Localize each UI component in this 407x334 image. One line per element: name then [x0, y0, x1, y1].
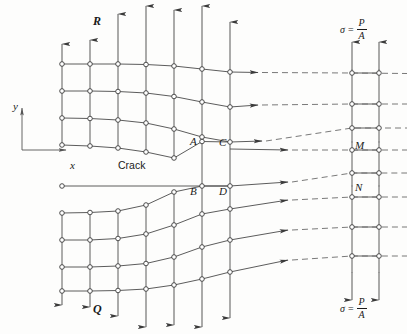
stress-fraction-bottom: P A — [357, 297, 367, 320]
traction-arrows-top — [62, 6, 379, 72]
node-label-c: C — [219, 137, 226, 148]
node-label-d: D — [219, 186, 227, 197]
flow-arrow — [230, 200, 288, 209]
crack-mesh-figure: R Q Crack A C B D M N y x σ = P A σ = P … — [0, 0, 407, 334]
stress-equals-bottom: = — [348, 304, 354, 314]
stress-label-top: σ = P A — [340, 18, 367, 41]
stress-numerator-bottom: P — [357, 297, 367, 308]
region-label-lower: Q — [93, 303, 102, 315]
traction-arrows-bottom — [62, 272, 379, 327]
flow-arrow — [230, 141, 262, 142]
region-label-upper: R — [93, 15, 101, 27]
stress-fraction-top: P A — [357, 18, 367, 41]
mesh-nodes — [60, 62, 382, 294]
stress-numerator-top: P — [357, 18, 367, 29]
stress-symbol-top: σ — [340, 25, 345, 35]
node-label-n: N — [355, 182, 362, 193]
flow-arrow — [230, 230, 288, 240]
stress-label-bottom: σ = P A — [340, 297, 367, 320]
flow-arrow — [230, 105, 258, 107]
stress-equals-top: = — [348, 25, 354, 35]
stress-denominator-bottom: A — [357, 309, 367, 320]
node-label-b: B — [190, 186, 197, 197]
axis-label-x: x — [70, 160, 75, 171]
flow-arrow — [230, 182, 288, 186]
flow-arrow — [230, 260, 288, 272]
stress-denominator-top: A — [357, 30, 367, 41]
flow-arrow — [230, 149, 288, 150]
axis-label-y: y — [13, 101, 18, 112]
flow-arrow — [230, 72, 258, 73]
node-label-m: M — [355, 140, 364, 151]
coordinate-axes — [22, 108, 66, 150]
mesh-diagram-svg — [0, 0, 407, 334]
node-label-a: A — [190, 136, 197, 147]
crack-label: Crack — [118, 160, 145, 171]
stress-symbol-bottom: σ — [340, 304, 345, 314]
